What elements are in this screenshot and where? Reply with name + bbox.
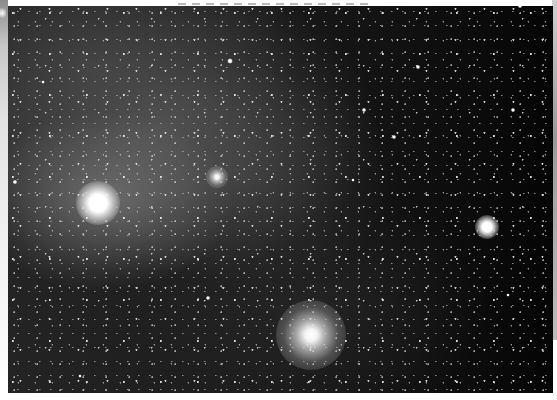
- bright-star-right: [475, 215, 499, 239]
- star-2: [416, 65, 420, 69]
- star-8: [206, 296, 210, 300]
- astrophotograph: [8, 6, 553, 393]
- bright-star-lower-left: [76, 181, 120, 225]
- star-5: [392, 135, 396, 139]
- globular-cluster: [276, 300, 346, 370]
- left-edge-strip: [0, 0, 8, 385]
- star-1: [228, 59, 233, 64]
- compact-cluster: [206, 166, 228, 188]
- star-10: [42, 81, 45, 84]
- star-12: [79, 375, 82, 378]
- bottom-margin: [0, 393, 557, 400]
- star-4: [511, 108, 515, 112]
- star-11: [507, 294, 510, 297]
- cropped-caption-text-fragment: [178, 0, 378, 3]
- star-6: [13, 180, 17, 184]
- star-7: [352, 179, 355, 182]
- star-3: [362, 108, 366, 112]
